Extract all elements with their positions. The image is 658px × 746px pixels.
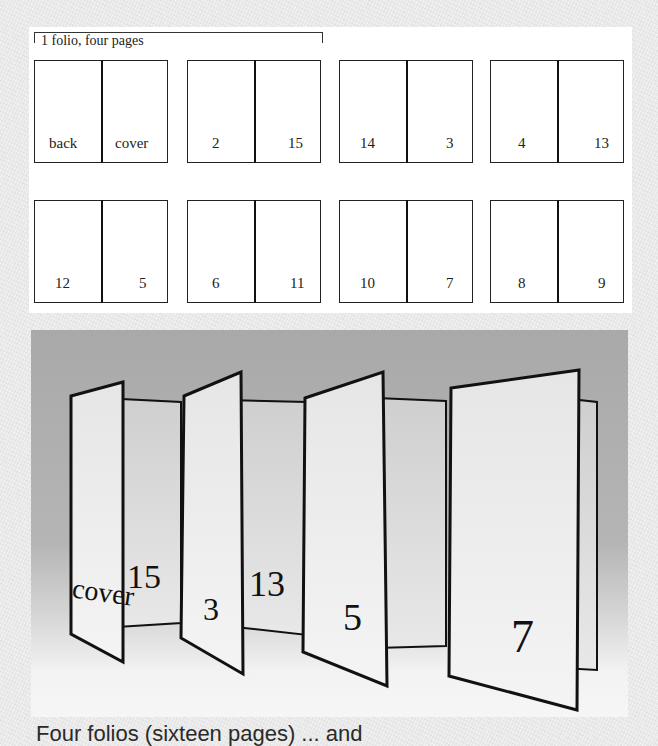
page-label-left: back — [49, 135, 77, 152]
accordion-book-illustration: cover 15 3 13 5 7 — [31, 330, 628, 717]
accordion-book-photo: cover 15 3 13 5 7 — [31, 330, 628, 717]
spread-2: 2 15 — [187, 60, 321, 163]
spread-5: 12 5 — [34, 200, 168, 303]
page-label-left: 6 — [212, 275, 220, 292]
figure-caption: Four folios (sixteen pages) ... and — [36, 722, 363, 746]
fold-line — [254, 200, 256, 303]
page-label-right: 3 — [446, 135, 454, 152]
svg-text:3: 3 — [203, 591, 219, 627]
svg-text:7: 7 — [511, 611, 534, 662]
page-label-left: 14 — [360, 135, 375, 152]
fold-line — [101, 60, 103, 163]
page-label-right: 11 — [290, 275, 304, 292]
page-label-left: 4 — [518, 135, 526, 152]
spread-6: 6 11 — [187, 200, 321, 303]
spread-3: 14 3 — [339, 60, 473, 163]
page-label-right: 13 — [594, 135, 609, 152]
spread-8: 8 9 — [490, 200, 624, 303]
fold-line — [406, 60, 408, 163]
spread-4: 4 13 — [490, 60, 624, 163]
fold-line — [101, 200, 103, 303]
page-label-left: 8 — [518, 275, 526, 292]
spread-1: back cover — [34, 60, 168, 163]
svg-text:5: 5 — [343, 596, 362, 638]
fold-line — [406, 200, 408, 303]
page-label-left: 2 — [212, 135, 220, 152]
svg-text:13: 13 — [249, 564, 285, 604]
page-label-left: 10 — [360, 275, 375, 292]
svg-text:15: 15 — [127, 558, 161, 595]
page-label-right: 5 — [139, 275, 147, 292]
page-label-left: 12 — [55, 275, 70, 292]
spread-7: 10 7 — [339, 200, 473, 303]
fold-line — [254, 60, 256, 163]
fold-line — [557, 60, 559, 163]
page-label-right: 9 — [598, 275, 606, 292]
folio-bracket-label: 1 folio, four pages — [41, 33, 144, 49]
fold-line — [557, 200, 559, 303]
page-label-right: 7 — [446, 275, 454, 292]
page-label-right: 15 — [288, 135, 303, 152]
page-label-right: cover — [115, 135, 148, 152]
imposition-diagram-panel: 1 folio, four pages back cover 2 15 14 3… — [29, 27, 632, 313]
